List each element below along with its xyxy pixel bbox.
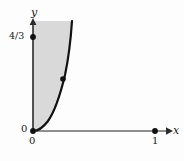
point-x-1 xyxy=(152,128,158,134)
x-axis-arrowhead xyxy=(166,127,173,135)
figure-container: y x 4/3 0 0 1 xyxy=(0,0,184,161)
y-axis-label: y xyxy=(31,7,37,18)
point-origin xyxy=(30,128,36,134)
x-tick-label-one: 1 xyxy=(152,136,158,146)
x-origin-label: 0 xyxy=(29,136,35,146)
y-tick-label-four-thirds: 4/3 xyxy=(9,31,24,41)
y-origin-label: 0 xyxy=(21,124,27,134)
x-axis-label: x xyxy=(173,125,179,136)
point-on-curve xyxy=(60,76,66,82)
point-y-4-3 xyxy=(30,34,36,40)
